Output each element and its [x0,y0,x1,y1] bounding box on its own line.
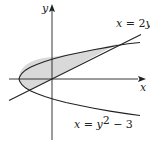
y-axis-label: y [41,2,49,15]
shaded-region-fill [19,44,117,91]
region-diagram: y x x = 2y x = y2 − 3 [0,0,150,143]
line-equation-label: x = 2y [116,17,150,30]
x-axis-label: x [140,81,147,94]
parabola-equation-label: x = y2 − 3 [74,114,133,131]
